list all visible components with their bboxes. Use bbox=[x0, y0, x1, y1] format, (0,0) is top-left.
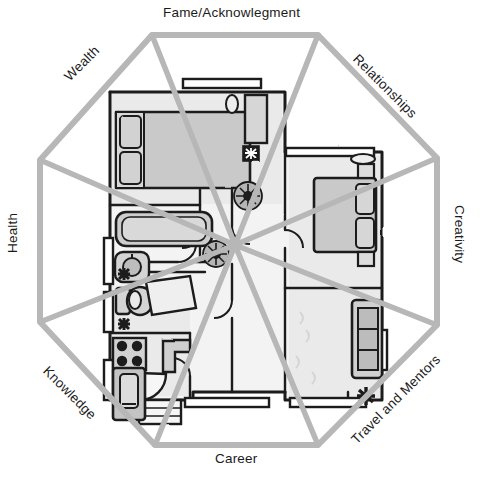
stove-icon bbox=[113, 338, 146, 370]
lamp-icon bbox=[226, 95, 238, 113]
double-bed bbox=[116, 112, 250, 188]
refrigerator bbox=[113, 368, 145, 420]
desk bbox=[146, 276, 196, 315]
plant-icon-study-top bbox=[118, 268, 130, 280]
nightstand-top bbox=[358, 164, 374, 178]
bagua-label-career: Career bbox=[215, 452, 257, 466]
wardrobe bbox=[245, 95, 267, 143]
bagua-floorplan-diagram: Fame/Acknowlegment Wealth Relationships … bbox=[0, 0, 480, 480]
desk-chair bbox=[129, 291, 141, 309]
bagua-label-creativity: Creativity bbox=[453, 205, 467, 263]
potted-plant-icon bbox=[243, 146, 259, 161]
bagua-label-health: Health bbox=[6, 213, 20, 253]
sofa bbox=[352, 300, 382, 378]
bagua-label-fame: Fame/Acknowlegment bbox=[163, 6, 300, 20]
nightstand-bottom bbox=[358, 252, 374, 266]
plant-icon-study-bottom bbox=[118, 318, 130, 330]
ceiling-lamp-icon bbox=[351, 154, 375, 164]
